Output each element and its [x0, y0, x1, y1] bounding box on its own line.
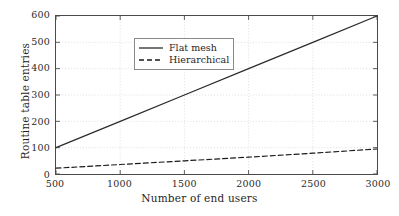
x-tick-label: 2000: [236, 178, 261, 189]
legend-line-sample-dashed: [138, 55, 164, 65]
legend-label-hierarchical: Hierarchical: [169, 55, 229, 65]
x-tick-label: 2500: [301, 178, 326, 189]
legend-label-flat-mesh: Flat mesh: [169, 43, 217, 53]
x-axis-title: Number of end users: [0, 192, 399, 204]
y-axis-title: Routine table entries: [19, 21, 31, 181]
y-tick-label: 600: [31, 9, 50, 20]
y-tick-label: 300: [31, 89, 50, 100]
chart-legend: Flat mesh Hierarchical: [134, 38, 234, 70]
legend-item-hierarchical: Hierarchical: [138, 54, 229, 66]
x-tick-label: 1500: [172, 178, 197, 189]
y-tick-label: 400: [31, 62, 50, 73]
x-tick-label: 1000: [107, 178, 132, 189]
chart-figure: Routine table entries Number of end user…: [0, 0, 399, 216]
legend-item-flat-mesh: Flat mesh: [138, 42, 229, 54]
x-tick-label: 500: [46, 178, 65, 189]
legend-line-sample-solid: [138, 43, 164, 53]
y-tick-label: 200: [31, 116, 50, 127]
y-tick-label: 500: [31, 36, 50, 47]
x-tick-label: 3000: [366, 178, 391, 189]
y-tick-label: 100: [31, 142, 50, 153]
plot-area: Flat mesh Hierarchical: [55, 15, 378, 175]
